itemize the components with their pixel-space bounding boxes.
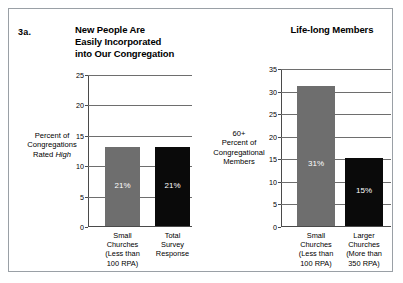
- bar[interactable]: 15%: [345, 158, 383, 226]
- left-y-axis-caption-line3: Rated High: [21, 150, 83, 159]
- y-tick-label: 10: [76, 162, 84, 171]
- left-chart-title-line1: New People Are: [75, 24, 225, 36]
- y-tick-mark: [278, 92, 281, 93]
- x-category-label-line: 350 RPA): [337, 259, 391, 268]
- left-bar-chart: 0510152025 21%21% SmallChurches(Less tha…: [88, 75, 192, 227]
- bar[interactable]: 21%: [155, 147, 190, 226]
- y-tick-mark: [85, 197, 88, 198]
- figure-number: 3a.: [18, 27, 31, 37]
- x-category-label-line: Churches: [97, 240, 148, 249]
- x-category-label-line: 100 RPA): [289, 259, 343, 268]
- bar-value-label: 31%: [297, 159, 335, 168]
- left-x-axis-line: [88, 226, 192, 227]
- x-category-label: LargerChurches(More than350 RPA): [337, 231, 391, 268]
- y-tick-label: 20: [269, 132, 277, 141]
- x-category-label-line: Total: [147, 231, 198, 240]
- x-category-label-line: Churches: [337, 240, 391, 249]
- y-tick-label: 20: [76, 101, 84, 110]
- gridline: [281, 69, 391, 70]
- right-y-axis-caption-line3: Congregational: [205, 148, 273, 157]
- gridline: [88, 75, 192, 76]
- y-tick-mark: [85, 136, 88, 137]
- y-tick-mark: [278, 69, 281, 70]
- right-y-axis-caption-line1: 60+: [205, 129, 273, 138]
- y-tick-label: 25: [76, 71, 84, 80]
- y-tick-label: 0: [273, 223, 277, 232]
- y-tick-label: 10: [269, 177, 277, 186]
- right-y-axis-caption: 60+ Percent of Congregational Members: [205, 129, 273, 167]
- y-tick-label: 5: [80, 192, 84, 201]
- right-bar-chart: 05101520253035 31%15% SmallChurches(Less…: [281, 69, 391, 227]
- gridline: [88, 105, 192, 106]
- x-category-label: SmallChurches(Less than100 RPA): [97, 231, 148, 268]
- x-category-label: SmallChurches(Less than100 RPA): [289, 231, 343, 268]
- y-tick-label: 5: [273, 200, 277, 209]
- y-tick-mark: [85, 227, 88, 228]
- x-category-label-line: Survey: [147, 240, 198, 249]
- gridline: [88, 136, 192, 137]
- right-y-axis-line: [281, 69, 282, 227]
- left-chart-title: New People Are Easily Incorporated into …: [75, 24, 225, 61]
- y-tick-mark: [85, 105, 88, 106]
- left-y-axis-line: [88, 75, 89, 227]
- bar[interactable]: 21%: [105, 147, 140, 226]
- y-tick-mark: [278, 159, 281, 160]
- y-tick-label: 15: [269, 155, 277, 164]
- y-tick-mark: [85, 166, 88, 167]
- x-category-label-line: Larger: [337, 231, 391, 240]
- left-chart-title-line3: into Our Congregation: [75, 48, 225, 60]
- right-x-axis-line: [281, 226, 391, 227]
- right-y-axis-caption-line2: Percent of: [205, 138, 273, 147]
- x-category-label-line: (Less than: [289, 249, 343, 258]
- left-y-axis-caption: Percent of Congregations Rated High: [21, 131, 83, 159]
- y-tick-mark: [278, 227, 281, 228]
- left-y-axis-caption-line1: Percent of: [21, 131, 83, 140]
- y-tick-label: 0: [80, 223, 84, 232]
- x-category-label-line: Churches: [289, 240, 343, 249]
- y-tick-label: 25: [269, 110, 277, 119]
- right-y-axis-caption-line4: Members: [205, 157, 273, 166]
- y-tick-label: 35: [269, 65, 277, 74]
- x-category-label-line: Response: [147, 249, 198, 258]
- bar-value-label: 21%: [105, 181, 140, 190]
- x-category-label: TotalSurveyResponse: [147, 231, 198, 259]
- bar-value-label: 21%: [155, 181, 190, 190]
- bar-value-label: 15%: [345, 186, 383, 195]
- y-tick-mark: [278, 182, 281, 183]
- left-y-axis-caption-line3-pre: Rated: [33, 150, 55, 159]
- figure-frame: 3a. New People Are Easily Incorporated i…: [8, 8, 393, 272]
- bar[interactable]: 31%: [297, 86, 335, 226]
- y-tick-mark: [278, 114, 281, 115]
- x-category-label-line: Small: [97, 231, 148, 240]
- x-category-label-line: Small: [289, 231, 343, 240]
- left-plot-area: 0510152025 21%21% SmallChurches(Less tha…: [88, 75, 192, 227]
- y-tick-mark: [278, 204, 281, 205]
- right-plot-area: 05101520253035 31%15% SmallChurches(Less…: [281, 69, 391, 227]
- right-chart-title: Life-long Members: [267, 24, 397, 36]
- x-category-label-line: (Less than: [97, 249, 148, 258]
- y-tick-mark: [85, 75, 88, 76]
- x-category-label-line: 100 RPA): [97, 259, 148, 268]
- left-y-axis-caption-line3-emphasis: High: [55, 150, 71, 159]
- y-tick-label: 15: [76, 131, 84, 140]
- left-chart-title-line2: Easily Incorporated: [75, 36, 225, 48]
- x-category-label-line: (More than: [337, 249, 391, 258]
- y-tick-mark: [278, 137, 281, 138]
- left-y-axis-caption-line2: Congregations: [21, 140, 83, 149]
- y-tick-label: 30: [269, 87, 277, 96]
